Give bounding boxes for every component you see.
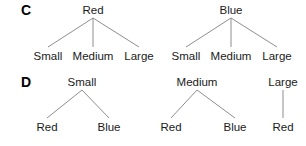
node-c-tree2-child-large: Large: [262, 50, 291, 62]
node-d-tree1-root: Small: [68, 76, 97, 88]
panel-d-edges: [0, 70, 306, 146]
panel-d: D Small Red Blue Medium Red Blue Large R…: [0, 70, 306, 146]
edge-medium-red: [171, 90, 197, 118]
node-c-tree1-child-large: Large: [124, 50, 153, 62]
node-c-tree1-child-medium: Medium: [73, 50, 114, 62]
edge-blue-small: [186, 18, 231, 47]
edge-red-large: [93, 18, 139, 47]
edge-small-red: [47, 90, 82, 118]
edge-medium-blue: [197, 90, 235, 118]
node-d-tree2-root: Medium: [177, 76, 218, 88]
edge-blue-large: [231, 18, 277, 47]
node-c-tree1-root: Red: [82, 4, 103, 16]
node-c-tree2-root: Blue: [219, 4, 242, 16]
node-c-tree1-child-small: Small: [34, 50, 63, 62]
node-d-tree1-child-blue: Blue: [97, 121, 120, 133]
node-c-tree2-child-small: Small: [172, 50, 201, 62]
edge-red-small: [48, 18, 93, 47]
node-c-tree2-child-medium: Medium: [211, 50, 252, 62]
node-d-tree3-root: Large: [268, 76, 297, 88]
node-d-tree1-child-red: Red: [36, 121, 57, 133]
node-d-tree3-child-red: Red: [272, 121, 293, 133]
edge-small-blue: [82, 90, 109, 118]
node-d-tree2-child-red: Red: [160, 121, 181, 133]
node-d-tree2-child-blue: Blue: [223, 121, 246, 133]
panel-c: C Red Small Medium Large Blue Small Medi…: [0, 0, 306, 70]
figure-canvas: C Red Small Medium Large Blue Small Medi…: [0, 0, 306, 146]
